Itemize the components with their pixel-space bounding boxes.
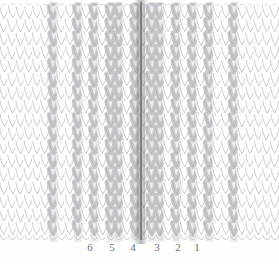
knit-fabric-figure: 6 5 4 3 2 1 bbox=[0, 0, 279, 264]
wale-labels-row: 6 5 4 3 2 1 bbox=[0, 240, 279, 264]
seam-line bbox=[134, 0, 148, 244]
wale-label-4: 4 bbox=[125, 240, 141, 254]
wale-label-1: 1 bbox=[189, 240, 205, 254]
fabric-illustration bbox=[0, 0, 279, 244]
fabric-svg bbox=[0, 0, 279, 244]
wale-label-6: 6 bbox=[82, 240, 98, 254]
wale-label-3: 3 bbox=[149, 240, 165, 254]
wale-label-5: 5 bbox=[104, 240, 120, 254]
wale-label-2: 2 bbox=[170, 240, 186, 254]
